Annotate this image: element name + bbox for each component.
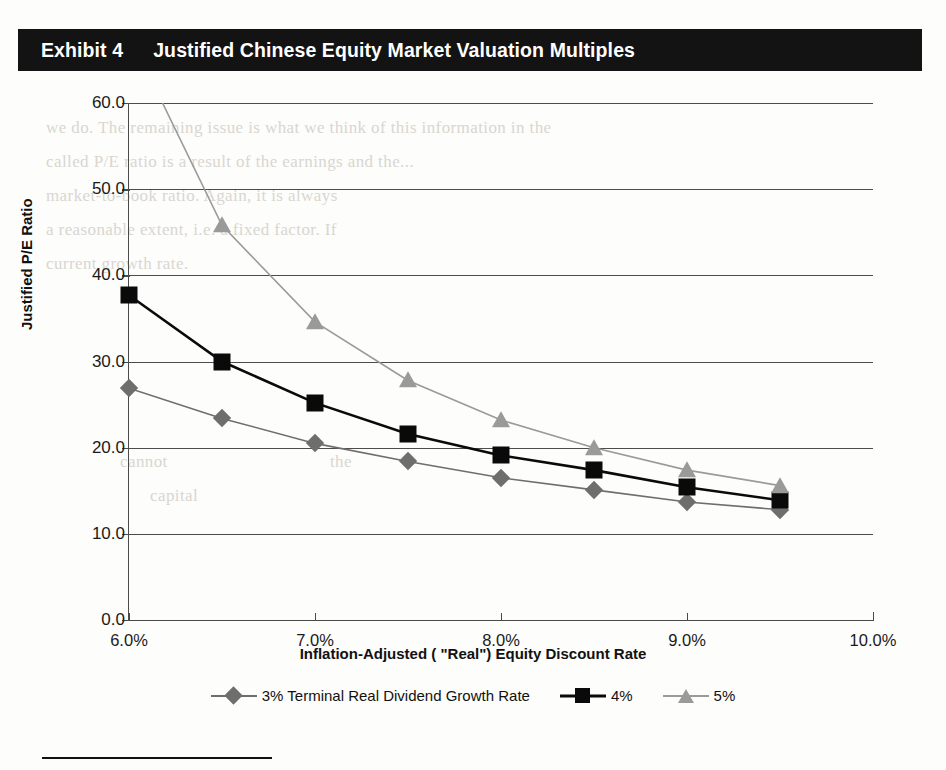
series-line: [163, 103, 781, 486]
exhibit-title: Justified Chinese Equity Market Valuatio…: [153, 39, 635, 62]
data-point-square: [121, 287, 138, 304]
legend-item[interactable]: 4%: [560, 687, 633, 704]
exhibit-title-banner: Exhibit 4 Justified Chinese Equity Marke…: [18, 29, 922, 71]
data-point-triangle: [585, 439, 603, 455]
data-point-square: [493, 447, 510, 464]
legend-marker-diamond: [225, 686, 243, 704]
data-point-triangle: [306, 313, 324, 329]
data-point-triangle: [492, 411, 510, 427]
y-tick-label: 30.0: [92, 352, 125, 372]
y-axis-title: Justified P/E Ratio: [18, 198, 35, 330]
data-point-square: [400, 425, 417, 442]
data-point-square: [679, 479, 696, 496]
chart-container: Justified P/E Ratio 0.010.020.030.040.05…: [0, 80, 946, 730]
legend-marker-square: [575, 688, 590, 703]
y-tick-label: 50.0: [92, 179, 125, 199]
y-tick-label: 10.0: [92, 524, 125, 544]
legend-label: 4%: [611, 687, 633, 704]
data-point-square: [307, 394, 324, 411]
data-point-triangle: [771, 477, 789, 493]
y-tick-label: 20.0: [92, 438, 125, 458]
exhibit-number: Exhibit 4: [41, 39, 123, 62]
data-point-triangle: [678, 461, 696, 477]
data-point-square: [214, 353, 231, 370]
legend-marker-triangle: [678, 689, 694, 703]
chart-legend: 3% Terminal Real Dividend Growth Rate4%5…: [0, 687, 946, 704]
series-lines: [129, 103, 873, 620]
legend-item[interactable]: 5%: [663, 687, 736, 704]
x-axis-title: Inflation-Adjusted ( "Real") Equity Disc…: [0, 645, 946, 662]
legend-label: 3% Terminal Real Dividend Growth Rate: [262, 687, 530, 704]
footnote-rule: [42, 757, 272, 759]
data-point-square: [586, 462, 603, 479]
legend-item[interactable]: 3% Terminal Real Dividend Growth Rate: [211, 687, 530, 704]
data-point-triangle: [213, 217, 231, 233]
plot-area: 0.010.020.030.040.050.060.0 6.0%7.0%8.0%…: [129, 103, 873, 620]
data-point-triangle: [399, 372, 417, 388]
y-tick-label: 0.0: [101, 610, 125, 630]
y-tick-label: 60.0: [92, 93, 125, 113]
y-tick-label: 40.0: [92, 265, 125, 285]
legend-label: 5%: [714, 687, 736, 704]
data-point-square: [772, 492, 789, 509]
